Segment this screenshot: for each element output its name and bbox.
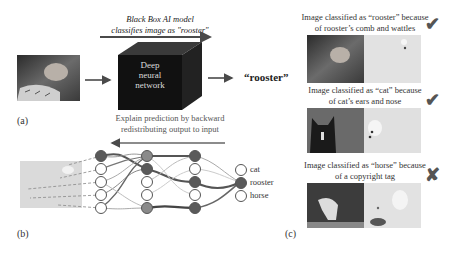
rooster-explanation: Image classified as “rooster” because of… xyxy=(290,12,440,33)
rooster-explanation-line1: Image classified as “rooster” because xyxy=(290,12,440,23)
cat-explanation-line2: of cat’s ears and nose xyxy=(290,96,440,107)
check-icon: ✔ xyxy=(425,13,440,35)
output-label-cat: cat xyxy=(250,164,260,174)
output-label-horse: horse xyxy=(250,190,268,200)
check-icon: ✔ xyxy=(425,89,440,111)
panel-c-label: (c) xyxy=(285,228,296,239)
panel-b-caption-line1: Explain prediction by backward xyxy=(105,113,235,124)
horse-explanation: Image classified as “horse” because of a… xyxy=(290,160,440,181)
rooster-explanation-line2: of rooster’s comb and wattles xyxy=(290,23,440,34)
horse-explanation-line1: Image classified as “horse” because xyxy=(290,160,440,171)
panel-b-caption: Explain prediction by backward redistrib… xyxy=(105,113,235,134)
rooster-pair xyxy=(307,35,421,83)
cube-label-line1: Deep xyxy=(118,60,182,70)
rooster-input-image xyxy=(17,55,80,101)
output-node-rooster xyxy=(236,178,247,189)
horse-pair xyxy=(307,183,421,228)
panel-b-label: (b) xyxy=(17,228,29,239)
output-node-horse xyxy=(236,191,247,202)
cat-pair xyxy=(307,108,421,153)
cat-explanation: Image classified as “cat” because of cat… xyxy=(290,85,440,106)
panel-a-label: (a) xyxy=(17,115,28,126)
horse-explanation-line2: of a copyright tag xyxy=(290,171,440,182)
layer-1-nodes xyxy=(96,151,107,214)
panel-b-caption-line2: redistributing output to input xyxy=(105,124,235,135)
cat-explanation-line1: Image classified as “cat” because xyxy=(290,85,440,96)
layer-2-nodes xyxy=(142,151,153,214)
cube-label-line3: network xyxy=(118,80,182,90)
output-nodes xyxy=(236,165,247,202)
network-connections xyxy=(101,154,240,209)
cube-label: Deep neural network xyxy=(118,60,182,90)
layer-3-nodes xyxy=(190,151,201,214)
output-label-rooster: rooster xyxy=(250,177,274,187)
prediction-label: “rooster” xyxy=(244,71,288,83)
cross-icon: ✘ xyxy=(425,164,440,186)
cube-label-line2: neural xyxy=(118,70,182,80)
output-node-cat xyxy=(236,165,247,176)
